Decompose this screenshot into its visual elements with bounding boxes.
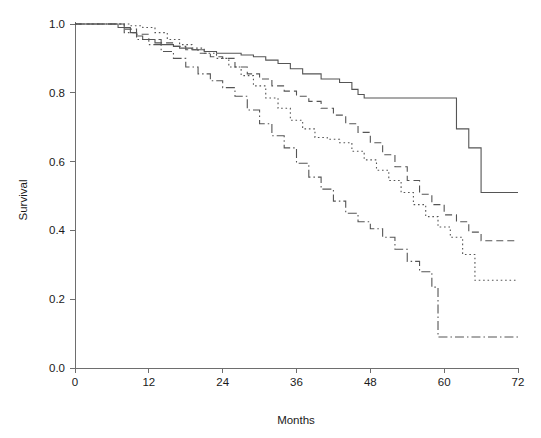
y-tick-labels: 0.00.20.40.60.81.0 <box>49 18 66 374</box>
x-tick-label-0: 0 <box>72 376 78 388</box>
y-tick-label-0-6: 0.6 <box>49 156 65 168</box>
y-tick-label-0-2: 0.2 <box>49 293 65 305</box>
y-tick-label-0-4: 0.4 <box>49 224 66 236</box>
y-tick-label-0-8: 0.8 <box>49 87 65 99</box>
y-tick-label-0: 0.0 <box>49 362 65 374</box>
chart-canvas: 0122436486072 0.00.20.40.60.81.0 Months … <box>0 0 541 438</box>
tick-marks <box>70 24 518 373</box>
x-tick-label-48: 48 <box>364 376 377 388</box>
x-tick-label-24: 24 <box>216 376 229 388</box>
survival-curves <box>75 24 518 337</box>
x-tick-label-36: 36 <box>290 376 303 388</box>
curve-group-2-dashed <box>75 24 518 241</box>
axes <box>75 22 518 368</box>
survival-chart: 0122436486072 0.00.20.40.60.81.0 Months … <box>0 0 541 438</box>
x-tick-label-12: 12 <box>142 376 155 388</box>
y-axis-title: Survival <box>17 180 29 221</box>
y-tick-label-1: 1.0 <box>49 18 65 30</box>
curve-group-1-solid <box>75 24 518 193</box>
x-axis-title: Months <box>277 414 315 426</box>
curve-group-4-dashdot <box>75 24 518 337</box>
x-tick-label-60: 60 <box>438 376 451 388</box>
x-tick-labels: 0122436486072 <box>72 376 525 388</box>
x-tick-label-72: 72 <box>512 376 525 388</box>
